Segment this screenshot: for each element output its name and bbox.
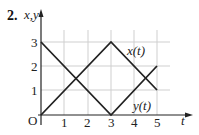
- origin-label: O: [28, 113, 37, 128]
- x-axis-arrow-icon: [185, 113, 193, 118]
- chart: 2. x,y t O 3 2 1 1 2 3 4 5 x(t) y(t): [0, 0, 199, 135]
- x-tick-2: 2: [84, 115, 91, 130]
- x-tick-1: 1: [61, 115, 68, 130]
- y-tick-3: 3: [31, 35, 38, 50]
- y-axis-label: x,y: [23, 7, 39, 22]
- axes: [38, 12, 188, 125]
- y-tick-1: 1: [31, 83, 38, 98]
- x-tick-3: 3: [108, 115, 115, 130]
- y-axis-arrow-icon: [39, 9, 44, 17]
- y-tick-2: 2: [31, 59, 38, 74]
- series-y-t-label: y(t): [131, 98, 151, 113]
- x-axis-label: t: [181, 113, 185, 128]
- x-tick-5: 5: [154, 115, 161, 130]
- problem-number: 2.: [7, 8, 18, 23]
- x-tick-4: 4: [131, 115, 138, 130]
- series-x-t-label: x(t): [126, 43, 145, 58]
